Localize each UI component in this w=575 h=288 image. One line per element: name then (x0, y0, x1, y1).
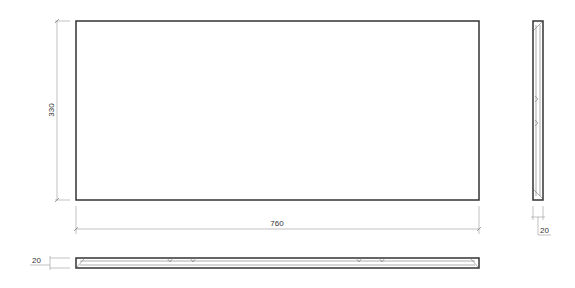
width-dimension: 760 (74, 206, 481, 234)
side-view: 20 (531, 21, 551, 235)
front-view (76, 21, 479, 200)
bottom-view: 20 (30, 256, 479, 270)
side-thickness-label: 20 (540, 226, 549, 235)
front-panel-outline (76, 21, 479, 200)
width-label: 760 (270, 219, 284, 228)
height-dimension: 330 (47, 19, 70, 202)
height-label: 330 (47, 103, 56, 117)
bottom-thickness-label: 20 (32, 256, 41, 265)
